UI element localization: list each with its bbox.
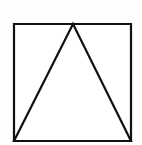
square-shape: [14, 24, 131, 141]
figure-canvas: [0, 0, 142, 145]
geometry-diagram: [0, 0, 142, 145]
